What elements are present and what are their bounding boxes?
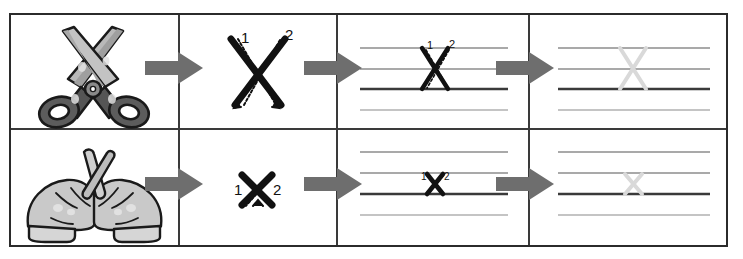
stroke-number-1: 1 xyxy=(421,171,427,182)
table-row: 1 2 xyxy=(11,15,726,130)
stroke-number-2: 2 xyxy=(444,171,450,182)
stroke-number-2: 2 xyxy=(449,38,455,50)
arrow-right-icon xyxy=(304,52,362,88)
writing-guidelines xyxy=(360,48,508,110)
worksheet-canvas: 1 2 xyxy=(0,0,743,259)
stroke-number-1: 1 xyxy=(241,29,249,46)
arrow-right-icon xyxy=(145,52,203,88)
arrow-right-icon xyxy=(304,168,362,204)
ghost-letter xyxy=(625,174,642,194)
lowercase-x-trace xyxy=(530,130,728,245)
arrow-right-icon xyxy=(496,52,554,88)
writing-guidelines xyxy=(558,48,710,110)
sequence-table: 1 2 xyxy=(9,13,728,247)
stroke-number-1: 1 xyxy=(427,39,433,51)
stroke-number-2: 2 xyxy=(273,181,281,198)
arrow-right-icon xyxy=(145,168,203,204)
stroke-number-2: 2 xyxy=(285,26,293,43)
arrow-right-icon xyxy=(496,168,554,204)
cell-trace-lowercase xyxy=(528,130,728,245)
table-row: 1 2 xyxy=(11,130,726,245)
cell-trace-uppercase xyxy=(528,15,728,128)
stroke-number-1: 1 xyxy=(234,181,242,198)
uppercase-x-trace xyxy=(530,15,728,128)
